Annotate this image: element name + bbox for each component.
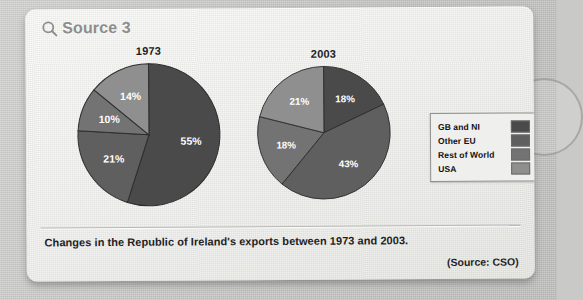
pie-chart-2003: 2003 18%43%18%21% — [253, 47, 394, 203]
pie-slice-label: 21% — [103, 152, 125, 164]
source-attribution: (Source: CSO) — [447, 256, 519, 268]
legend-row: GB and NI — [438, 119, 530, 133]
legend-label: GB and NI — [438, 121, 480, 131]
legend-swatch — [511, 162, 530, 174]
pie-slice-label: 14% — [120, 90, 142, 102]
pie-year-label-2003: 2003 — [253, 47, 393, 60]
legend-swatch — [511, 134, 530, 146]
pie-svg-2003: 18%43%18%21% — [254, 62, 395, 203]
legend-row: Rest of World — [438, 147, 530, 161]
pie-year-label-1973: 1973 — [73, 44, 223, 57]
legend-label: Rest of World — [438, 149, 494, 159]
pie-slice-label: 55% — [181, 135, 203, 147]
caption-divider — [41, 225, 521, 229]
caption-text: Changes in the Republic of Ireland's exp… — [45, 234, 409, 248]
legend-row: USA — [438, 161, 530, 175]
legend-label: USA — [438, 163, 456, 173]
pie-svg-1973: 55%21%10%14% — [73, 59, 224, 210]
pie-slice-label: 43% — [339, 158, 359, 169]
source-card: Source 3 1973 55%21%10%14% 2003 18%43%18… — [25, 6, 535, 281]
legend-swatch — [511, 148, 530, 160]
pie-slice-label: 18% — [335, 93, 355, 104]
chart-legend: GB and NIOther EURest of WorldUSA — [430, 112, 535, 182]
pie-slice-label: 18% — [276, 139, 296, 150]
legend-swatch — [511, 120, 530, 132]
pie-slice-label: 10% — [99, 113, 121, 125]
pie-chart-1973: 1973 55%21%10%14% — [73, 44, 224, 210]
legend-label: Other EU — [438, 135, 476, 145]
pie-slice-label: 21% — [290, 96, 310, 107]
legend-row: Other EU — [438, 133, 530, 147]
